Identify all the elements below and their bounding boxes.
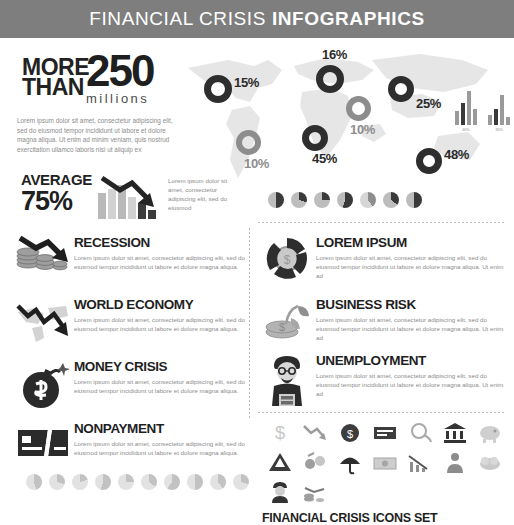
- hero-prefix: MORE THAN: [22, 57, 89, 97]
- pie-chart-0: [26, 474, 42, 490]
- map-marker-4: [236, 130, 261, 155]
- pie-chart-7: [187, 474, 203, 490]
- item-description: Lorem ipsum dolor sit amet, consectetur …: [74, 253, 252, 271]
- pie-chart-3: [337, 192, 353, 208]
- chart-down-arrow-icon: [297, 420, 332, 446]
- coin-sprout-icon: $: [258, 296, 316, 346]
- item-title: BUSINESS RISK: [316, 297, 508, 312]
- hero-than-label: THAN: [22, 77, 89, 97]
- dollar-coin-icon: $: [332, 420, 367, 446]
- mini-bar-chart-1: 35%: [487, 85, 511, 143]
- dollar-sign-icon: $: [262, 420, 297, 446]
- cash-stack-icon: [367, 420, 402, 446]
- cut-credit-card-icon: [12, 420, 74, 464]
- bank-building-icon: [438, 420, 473, 446]
- coin-transfer-icon: [297, 450, 332, 476]
- average-block: AVERAGE 75%: [21, 172, 92, 214]
- svg-text:$: $: [347, 428, 353, 440]
- mini-bar-charts: 40%35%: [454, 85, 512, 143]
- list-item-money-crisis[interactable]: MONEY CRISIS Lorem ipsum dolor sit amet,…: [12, 358, 252, 410]
- item-description: Lorem ipsum dolor sit amet, consectetur …: [74, 377, 252, 395]
- pie-chart-5: [383, 192, 399, 208]
- map-marker-label: 25%: [416, 96, 441, 111]
- down-arrow-icon: [98, 173, 160, 219]
- item-description: Lorem ipsum dolor sit amet, consectetur …: [316, 253, 508, 280]
- map-marker-2: [388, 76, 414, 102]
- map-marker-label: 16%: [322, 47, 347, 62]
- mini-bars: [454, 85, 478, 125]
- item-title: WORLD ECONOMY: [74, 297, 252, 312]
- pie-chart-6: [406, 192, 422, 208]
- item-description: Lorem ipsum dolor sit amet, consectetur …: [74, 315, 252, 333]
- list-item-lorem-ipsum[interactable]: $ LOREM IPSUM Lorem ipsum dolor sit amet…: [258, 234, 508, 284]
- pie-chart-3: [95, 474, 111, 490]
- item-text-block: RECESSION Lorem ipsum dolor sit amet, co…: [74, 234, 252, 284]
- pie-chart-row-bottom: [26, 474, 249, 490]
- pie-chart-2: [314, 192, 330, 208]
- pie-chart-4: [118, 474, 134, 490]
- pie-chart-6: [164, 474, 180, 490]
- item-description: Lorem ipsum dolor sit amet, consectetur …: [74, 439, 252, 457]
- businessman-icon: [438, 450, 473, 476]
- mini-bar-chart-0: 40%: [454, 85, 478, 143]
- pie-chart-2: [72, 474, 88, 490]
- pie-chart-1: [291, 192, 307, 208]
- banknote-icon: [367, 450, 402, 476]
- item-title: LOREM IPSUM: [316, 235, 508, 250]
- mini-bars: [487, 85, 511, 125]
- list-item-unemployment[interactable]: UNEMPLOYMENT Lorem ipsum dolor sit amet,…: [258, 352, 508, 408]
- item-description: Lorem ipsum dolor sit amet, consectetur …: [316, 371, 508, 398]
- icon-set-title: FINANCIAL CRISIS ICONS SET: [262, 511, 508, 525]
- item-title: MONEY CRISIS: [74, 359, 252, 374]
- map-marker-label: 48%: [444, 147, 469, 162]
- svg-text:$: $: [275, 423, 285, 443]
- list-item-world-economy[interactable]: WORLD ECONOMY Lorem ipsum dolor sit amet…: [12, 296, 252, 346]
- money-cloud-icon: [473, 450, 508, 476]
- pie-chart-row-top: [268, 192, 422, 208]
- item-text-block: NONPAYMENT Lorem ipsum dolor sit amet, c…: [74, 420, 252, 464]
- page-title-bold: INFOGRAPHICS: [272, 8, 425, 29]
- pie-chart-1: [49, 474, 65, 490]
- page-title: FINANCIAL CRISIS INFOGRAPHICS: [89, 8, 425, 30]
- item-text-block: UNEMPLOYMENT Lorem ipsum dolor sit amet,…: [316, 352, 508, 408]
- map-marker-5: [302, 125, 328, 151]
- pie-chart-4: [360, 192, 376, 208]
- item-text-block: BUSINESS RISK Lorem ipsum dolor sit amet…: [316, 296, 508, 346]
- map-marker-label: 45%: [312, 151, 337, 166]
- list-item-business-risk[interactable]: $ BUSINESS RISK Lorem ipsum dolor sit am…: [258, 296, 508, 346]
- svg-text:$: $: [284, 253, 291, 267]
- world-map-down-arrow-icon: [12, 296, 74, 346]
- svg-text:$: $: [279, 321, 285, 333]
- pie-chart-8: [210, 474, 226, 490]
- coins-down-arrow-icon: [12, 234, 74, 284]
- item-text-block: MONEY CRISIS Lorem ipsum dolor sit amet,…: [74, 358, 252, 410]
- average-bar-chart: [98, 173, 160, 219]
- worker-icon: [262, 480, 297, 506]
- warning-mountain-icon: [262, 450, 297, 476]
- list-item-nonpayment[interactable]: NONPAYMENT Lorem ipsum dolor sit amet, c…: [12, 420, 252, 464]
- average-text: Lorem ipsum dolor sit amet, consectetur …: [168, 176, 238, 212]
- item-description: Lorem ipsum dolor sit amet, consectetur …: [316, 315, 508, 342]
- mini-chart-caption: 40%: [454, 127, 478, 132]
- item-text-block: WORLD ECONOMY Lorem ipsum dolor sit amet…: [74, 296, 252, 346]
- divider-bottom-right: [258, 412, 506, 413]
- map-marker-label: 15%: [234, 75, 259, 90]
- map-marker-label: 10%: [350, 122, 375, 137]
- pie-chart-9: [233, 474, 249, 490]
- item-title: RECESSION: [74, 235, 252, 250]
- icon-set-grid: $$: [262, 420, 508, 506]
- jobless-man-sign-icon: [258, 352, 316, 408]
- coin-donut-icon: $: [258, 234, 316, 284]
- map-marker-1: [316, 65, 344, 93]
- dollar-bomb-icon: [12, 358, 74, 410]
- hero-unit: millions: [86, 91, 153, 106]
- hero-lead-text: Lorem ipsum dolor sit amet, consectetur …: [17, 116, 177, 154]
- piggy-bank-icon: [473, 420, 508, 446]
- item-title: NONPAYMENT: [74, 421, 252, 436]
- page-title-light: FINANCIAL CRISIS: [89, 8, 272, 29]
- umbrella-icon: [332, 450, 367, 476]
- declining-coins-icon: [297, 480, 332, 506]
- hero-number: 250: [86, 52, 153, 90]
- list-item-recession[interactable]: RECESSION Lorem ipsum dolor sit amet, co…: [12, 234, 252, 284]
